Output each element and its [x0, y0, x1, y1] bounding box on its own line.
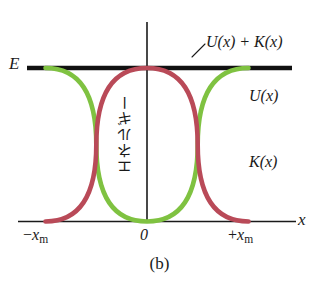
vertical-axis-title-energy: エネルギー	[118, 94, 138, 174]
tick-label-minus-xm: −xm	[23, 227, 48, 245]
energy-diagram-figure: E x U(x) + K(x) U(x) K(x) エネルギー −xm 0 +x…	[0, 0, 319, 288]
figure-caption: (b)	[0, 255, 319, 272]
kinetic-energy-label: K(x)	[249, 154, 277, 170]
tick-label-zero: 0	[140, 227, 148, 243]
tick-label-plus-sign: +	[228, 226, 237, 243]
total-energy-leader-line	[192, 44, 205, 57]
tick-label-minus-sign: −	[23, 226, 32, 243]
tick-label-minus-subscript: m	[39, 233, 48, 245]
total-energy-label: U(x) + K(x)	[206, 34, 283, 50]
tick-label-plus-subscript: m	[244, 233, 253, 245]
tick-label-plus-xm: +xm	[228, 227, 253, 245]
y-axis-label-E: E	[9, 55, 19, 72]
x-axis-label: x	[298, 211, 306, 228]
potential-energy-label: U(x)	[249, 88, 278, 104]
